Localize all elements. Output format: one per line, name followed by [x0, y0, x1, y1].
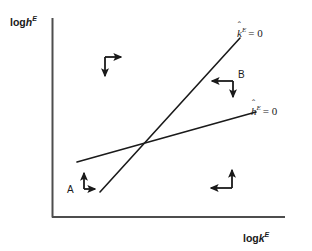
- k-nullcline-label-equals: = 0: [248, 27, 262, 39]
- k-nullcline-label-variable: ˆk: [237, 28, 242, 39]
- h-nullcline-label-variable: ˆh: [251, 106, 257, 117]
- direction-arrow-lower-right: [211, 170, 232, 188]
- hat-accent: ˆ: [238, 22, 241, 31]
- k-nullcline-label-superscript: E: [242, 26, 246, 34]
- diagram-canvas: [0, 0, 312, 251]
- x-axis-label: logkE: [243, 231, 269, 243]
- k-nullcline-line: [100, 38, 240, 192]
- h-nullcline-label: ˆhE= 0: [251, 105, 277, 117]
- direction-arrow-upper-right: [212, 81, 233, 97]
- direction-arrow-lower-left: [84, 173, 95, 189]
- nullcline-group: [77, 38, 256, 192]
- y-axis-label: loghE: [10, 15, 37, 27]
- y-axis-label-superscript: E: [32, 15, 37, 22]
- x-axis-label-superscript: E: [265, 231, 270, 238]
- phase-diagram-figure: loghE logkE ˆkE= 0 ˆhE= 0 A B: [0, 0, 312, 251]
- h-nullcline-label-superscript: E: [257, 104, 261, 112]
- x-axis-label-prefix: log: [243, 232, 259, 244]
- y-axis-label-prefix: log: [10, 16, 26, 28]
- direction-arrow-upper-left: [105, 57, 121, 76]
- k-nullcline-label: ˆkE= 0: [237, 27, 263, 39]
- region-label-a: A: [67, 185, 74, 195]
- h-nullcline-label-equals: = 0: [263, 105, 277, 117]
- hat-accent: ˆ: [252, 100, 255, 109]
- region-label-b: B: [238, 70, 245, 80]
